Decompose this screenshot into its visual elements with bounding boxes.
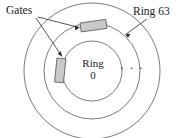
gate-top-body <box>80 19 107 32</box>
ring-0-label-line2: 0 <box>74 70 112 82</box>
ring-63-label: Ring 63 <box>133 5 170 17</box>
gate-left-vertical[interactable] <box>54 58 65 83</box>
ellipsis-label: · · · <box>120 62 144 75</box>
gate-top-horizontal[interactable] <box>80 19 107 32</box>
gates-arrowhead-top <box>75 26 80 31</box>
ring-0-label-line1: Ring <box>82 57 103 69</box>
gates-arrowhead-left <box>58 51 62 56</box>
gates-label: Gates <box>6 4 32 16</box>
concentric-ring-network-diagram: Gates Ring 63 Ring 0 · · · <box>0 0 190 138</box>
ring-0-label: Ring 0 <box>74 58 112 81</box>
gate-left-body <box>54 58 65 83</box>
